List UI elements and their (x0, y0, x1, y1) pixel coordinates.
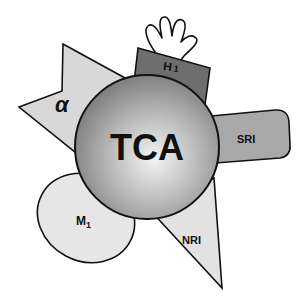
nri-label: NRI (182, 234, 201, 246)
tca-receptor-diagram: H1 α SRI NRI M1 TCA (0, 0, 300, 303)
tca-label: TCA (110, 127, 184, 168)
m1-label: M (76, 214, 86, 228)
alpha-label: α (55, 92, 70, 117)
sri-label: SRI (237, 133, 255, 145)
tca-sphere: TCA (75, 75, 219, 219)
m1-subscript: 1 (86, 220, 91, 230)
